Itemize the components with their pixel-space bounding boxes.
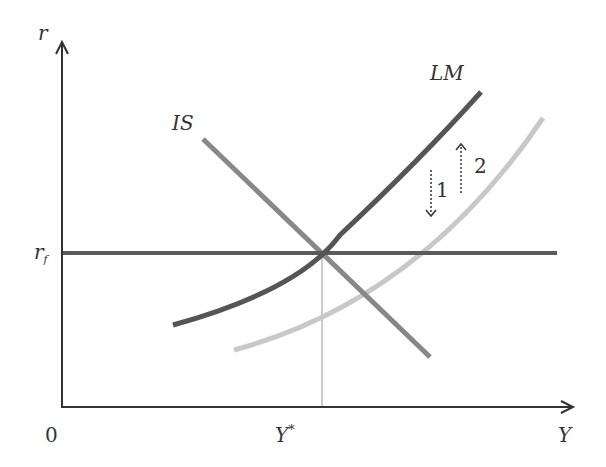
y-axis-label: r xyxy=(38,21,49,45)
equilibrium-output-label: Y* xyxy=(275,422,295,447)
world-rate-label: rf xyxy=(34,240,50,266)
equilibrium-output-star: * xyxy=(288,422,295,437)
x-axis-label-text: Y xyxy=(558,423,573,447)
is-lm-diagram: r 0 Y rf Y* IS LM 1 2 xyxy=(0,0,606,467)
is-curve-label: IS xyxy=(171,111,194,135)
world-rate-subscript: f xyxy=(43,253,50,266)
origin-label: 0 xyxy=(45,423,58,447)
shift-arrow-1-label: 1 xyxy=(436,178,449,202)
x-axis-label: Y xyxy=(558,423,573,447)
shift-arrow-2-label: 2 xyxy=(474,154,487,178)
lm-curve xyxy=(173,92,481,325)
lm-curve-label: LM xyxy=(429,61,464,85)
is-curve xyxy=(203,139,430,357)
